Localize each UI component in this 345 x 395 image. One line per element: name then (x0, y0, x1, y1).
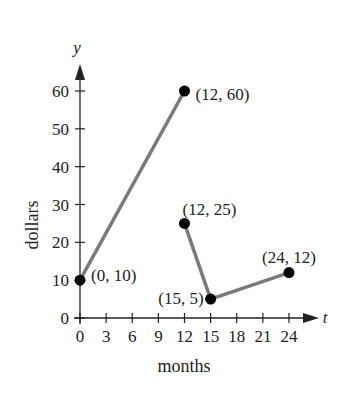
point-label: (15, 5) (158, 289, 203, 308)
x-axis-label: months (157, 356, 210, 376)
x-tick-label: 3 (102, 327, 111, 346)
y-tick-label: 50 (52, 120, 69, 139)
y-tick-label: 10 (52, 271, 69, 290)
x-tick-label: 9 (154, 327, 163, 346)
x-tick-label: 21 (254, 327, 271, 346)
data-line-segment-1 (80, 91, 185, 280)
y-tick-label: 20 (52, 233, 69, 252)
x-tick-label: 0 (76, 327, 85, 346)
data-point (284, 267, 295, 278)
x-tick-label: 6 (128, 327, 137, 346)
data-point (205, 294, 216, 305)
data-point (179, 218, 190, 229)
x-axis-variable: t (323, 308, 329, 327)
y-axis-variable: y (71, 38, 81, 57)
x-tick-label: 12 (176, 327, 193, 346)
y-axis-arrow-icon (75, 64, 85, 80)
x-axis-arrow-icon (303, 313, 319, 323)
point-label: (12, 25) (183, 200, 237, 219)
point-label: (24, 12) (262, 248, 316, 267)
point-label: (0, 10) (91, 266, 136, 285)
y-tick-label: 60 (52, 82, 69, 101)
y-axis-label: dollars (22, 201, 42, 250)
y-tick-label: 0 (61, 309, 70, 328)
line-chart: 010203040506003691215182124 (0, 10)(12, … (0, 0, 345, 395)
point-label: (12, 60) (196, 85, 250, 104)
data-point (179, 86, 190, 97)
data-point (75, 275, 86, 286)
x-tick-label: 18 (228, 327, 245, 346)
y-tick-label: 40 (52, 158, 69, 177)
x-tick-label: 15 (202, 327, 219, 346)
x-tick-label: 24 (281, 327, 299, 346)
y-tick-label: 30 (52, 196, 69, 215)
